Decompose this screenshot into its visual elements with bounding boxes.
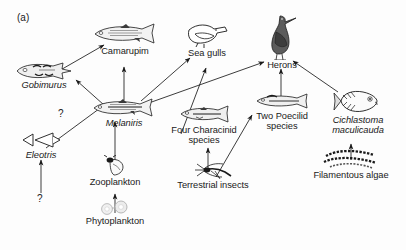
silverside-fish-icon: [90, 96, 158, 118]
phytoplankton-icon: [98, 200, 132, 216]
node-seagulls[interactable]: Sea gulls: [174, 22, 240, 59]
goby-fish-icon: [13, 60, 75, 80]
node-label-cichlastoma-line1: Cichlastoma: [318, 115, 398, 125]
filamentous-algae-icon: [320, 148, 382, 170]
node-label-gobimurus: Gobimurus: [2, 81, 86, 91]
node-label-melaniris: Melaniris: [84, 119, 164, 129]
node-two-poecilid-species[interactable]: Two Poecilid species: [244, 92, 320, 131]
node-label-filamentous-algae: Filamentous algae: [303, 171, 399, 181]
heron-bird-icon: [262, 12, 302, 60]
node-label-characinid-line2: species: [158, 135, 250, 145]
node-label-eleotris: Eleotris: [8, 151, 74, 161]
node-zooplankton[interactable]: Zooplankton: [79, 155, 151, 188]
food-web-figure: (a): [0, 0, 406, 250]
cichlid-fish-icon: [333, 88, 383, 114]
poecilid-fish-icon: [253, 92, 311, 110]
node-camarupim[interactable]: Camarupim: [84, 22, 166, 57]
question-mark-eleotris-melaniris: ?: [58, 108, 64, 119]
node-label-cichlastoma-line2: maculicauda: [318, 125, 398, 135]
herring-fish-icon: [90, 22, 160, 46]
node-filamentous-algae[interactable]: Filamentous algae: [303, 148, 399, 181]
node-melaniris[interactable]: Melaniris: [84, 96, 164, 129]
node-label-seagulls: Sea gulls: [174, 49, 240, 59]
node-eleotris[interactable]: Eleotris: [8, 130, 74, 161]
node-terrestrial-insects[interactable]: Terrestrial insects: [166, 160, 260, 191]
zooplankton-icon: [102, 155, 128, 177]
node-label-terrestrial-insects: Terrestrial insects: [166, 181, 260, 191]
node-label-poecilid-line1: Two Poecilid: [244, 111, 320, 121]
mosquito-insect-icon: [191, 160, 235, 180]
node-label-phytoplankton: Phytoplankton: [74, 217, 156, 227]
node-cichlastoma-maculicauda[interactable]: Cichlastoma maculicauda: [318, 88, 398, 135]
node-four-characinid-species[interactable]: Four Characinid species: [158, 104, 250, 145]
node-label-poecilid-line2: species: [244, 121, 320, 131]
node-label-zooplankton: Zooplankton: [79, 178, 151, 188]
seagull-bird-icon: [183, 22, 231, 48]
eleotris-fish-icon: [19, 130, 63, 150]
edge-melaniris-seagulls: [141, 58, 190, 101]
characin-fish-icon: [176, 104, 232, 124]
question-mark-eleotris-source: ?: [37, 193, 43, 204]
node-label-camarupim: Camarupim: [84, 47, 166, 57]
node-phytoplankton[interactable]: Phytoplankton: [74, 200, 156, 227]
node-herons[interactable]: Herons: [252, 12, 312, 71]
node-label-herons: Herons: [252, 61, 312, 71]
node-label-characinid-line1: Four Characinid: [158, 125, 250, 135]
node-gobimurus[interactable]: Gobimurus: [2, 60, 86, 91]
